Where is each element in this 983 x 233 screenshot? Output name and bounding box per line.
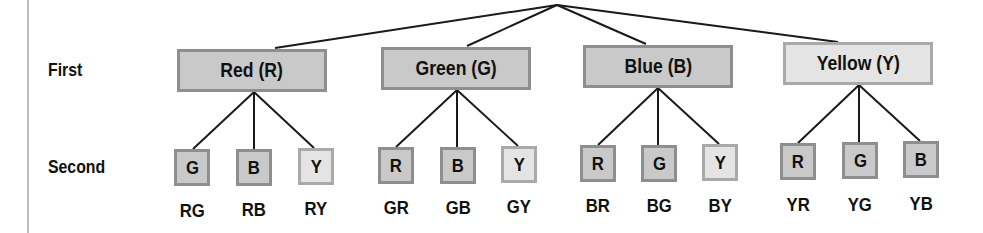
combo-text: YB — [909, 193, 932, 215]
node-green: Green (G) — [381, 47, 531, 90]
node-letter: Y — [310, 156, 321, 178]
node-letter: B — [248, 157, 260, 179]
tree-diagram: First Second Red (R) Green (G) Blue (B) … — [0, 0, 983, 233]
node-letter: B — [915, 149, 927, 171]
node-letter: Y — [513, 154, 524, 176]
combo-label: RG — [167, 200, 217, 222]
node-by: Y — [702, 144, 738, 181]
combo-label: GR — [371, 197, 421, 219]
node-label: Yellow (Y) — [816, 52, 899, 75]
node-yb: B — [903, 141, 939, 178]
combo-text: BG — [646, 195, 671, 217]
combo-text: RB — [242, 199, 266, 221]
node-letter: B — [452, 155, 464, 177]
node-blue: Blue (B) — [583, 45, 733, 88]
row-label-first: First — [48, 60, 82, 81]
node-yg: G — [842, 142, 878, 179]
combo-label: RY — [291, 198, 341, 220]
combo-text: GR — [383, 197, 408, 219]
node-gb: B — [440, 147, 476, 184]
combo-text: BY — [708, 195, 731, 217]
combo-text: RG — [179, 200, 204, 222]
node-letter: Y — [714, 152, 725, 174]
combo-text: YG — [848, 194, 872, 216]
node-yellow: Yellow (Y) — [783, 42, 933, 85]
node-gr: R — [378, 147, 414, 184]
node-label: Red (R) — [221, 59, 284, 82]
node-label: Blue (B) — [624, 55, 691, 78]
combo-text: GB — [445, 197, 470, 219]
combo-label: BG — [634, 195, 684, 217]
combo-label: YG — [835, 194, 885, 216]
combo-text: YR — [786, 194, 809, 216]
row-label-second: Second — [48, 157, 105, 178]
combo-label: BY — [695, 195, 745, 217]
node-letter: R — [792, 151, 804, 173]
combo-label: YB — [896, 193, 946, 215]
node-yr: R — [780, 143, 816, 180]
combo-label: GY — [494, 196, 544, 218]
combo-label: BR — [573, 195, 623, 217]
node-label: Green (G) — [415, 57, 496, 80]
node-letter: G — [652, 153, 665, 175]
combo-text: RY — [305, 198, 328, 220]
node-rb: B — [236, 149, 272, 186]
node-letter: R — [390, 155, 402, 177]
node-gy: Y — [501, 146, 537, 183]
combo-label: YR — [773, 194, 823, 216]
combo-label: RB — [229, 199, 279, 221]
combo-text: GY — [507, 196, 531, 218]
node-ry: Y — [298, 148, 334, 185]
node-red: Red (R) — [177, 49, 327, 92]
node-bg: G — [641, 145, 677, 182]
node-br: R — [580, 145, 616, 182]
combo-label: GB — [433, 197, 483, 219]
node-letter: G — [853, 150, 866, 172]
node-rg: G — [174, 149, 210, 186]
node-letter: R — [592, 153, 604, 175]
node-letter: G — [185, 157, 198, 179]
combo-text: BR — [586, 195, 610, 217]
